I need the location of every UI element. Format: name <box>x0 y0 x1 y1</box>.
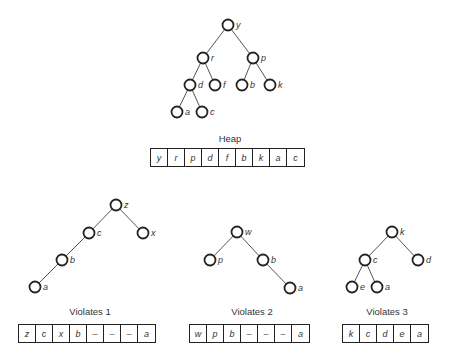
tree-node-a <box>172 107 183 118</box>
tree-node-label: e <box>360 282 365 292</box>
array-cell: b <box>70 325 87 342</box>
violates2-caption: Violates 2 <box>217 306 287 317</box>
violates3-array: kcdea <box>342 324 429 343</box>
violates2-tree: wpba <box>205 227 304 294</box>
array-cell: a <box>270 149 287 166</box>
tree-node-label: p <box>217 255 223 265</box>
tree-node-y <box>223 20 234 31</box>
tree-node-f <box>210 80 221 91</box>
tree-node-label: c <box>210 107 215 117</box>
array-cell: – <box>104 325 121 342</box>
tree-node-label: b <box>70 255 75 265</box>
tree-node-label: r <box>211 53 215 63</box>
tree-node-label: c <box>97 228 102 238</box>
array-cell: f <box>219 149 236 166</box>
array-cell: w <box>190 325 207 342</box>
array-cell: c <box>287 149 304 166</box>
tree-node-label: a <box>385 282 390 292</box>
tree-node-label: a <box>298 283 303 293</box>
tree-node-k <box>387 227 398 238</box>
tree-node-label: d <box>426 255 432 265</box>
array-cell: y <box>151 149 168 166</box>
tree-node-label: k <box>278 80 283 90</box>
array-cell: a <box>411 325 428 342</box>
tree-node-z <box>111 200 122 211</box>
tree-node-k <box>265 80 276 91</box>
violates1-array: zcxb–––a <box>18 324 156 343</box>
tree-node-a <box>30 282 41 293</box>
array-cell: – <box>241 325 258 342</box>
array-cell: a <box>138 325 155 342</box>
array-cell: b <box>236 149 253 166</box>
tree-node-label: y <box>235 20 241 30</box>
violates3-tree: kcdea <box>347 227 433 293</box>
tree-node-label: p <box>260 53 266 63</box>
tree-node-label: w <box>245 227 252 237</box>
tree-node-label: z <box>123 200 129 210</box>
array-cell: a <box>292 325 309 342</box>
array-cell: r <box>168 149 185 166</box>
array-cell: x <box>53 325 70 342</box>
violates2-array: wpb–––a <box>189 324 310 343</box>
array-cell: c <box>36 325 53 342</box>
tree-node-label: c <box>373 255 378 265</box>
tree-node-x <box>138 228 149 239</box>
violates1-caption: Violates 1 <box>55 306 125 317</box>
violates1-tree: zcxba <box>30 200 157 293</box>
array-cell: e <box>394 325 411 342</box>
tree-node-label: x <box>150 228 156 238</box>
array-cell: c <box>360 325 377 342</box>
violates3-caption: Violates 3 <box>352 306 422 317</box>
tree-node-b <box>57 255 68 266</box>
tree-node-c <box>360 255 371 266</box>
array-cell: d <box>202 149 219 166</box>
tree-node-label: f <box>223 80 227 90</box>
array-cell: p <box>207 325 224 342</box>
heap-array: yrpdfbkac <box>150 148 305 167</box>
tree-node-p <box>248 53 259 64</box>
tree-node-p <box>205 255 216 266</box>
tree-node-label: b <box>271 255 276 265</box>
array-cell: – <box>121 325 138 342</box>
tree-node-d <box>413 255 424 266</box>
tree-node-w <box>232 227 243 238</box>
array-cell: b <box>224 325 241 342</box>
tree-node-label: b <box>250 80 255 90</box>
array-cell: d <box>377 325 394 342</box>
array-cell: k <box>343 325 360 342</box>
tree-node-label: d <box>198 80 204 90</box>
tree-node-b <box>237 80 248 91</box>
tree-node-c <box>84 228 95 239</box>
tree-node-b <box>258 255 269 266</box>
tree-node-a <box>372 282 383 293</box>
array-cell: k <box>253 149 270 166</box>
tree-node-a <box>285 283 296 294</box>
array-cell: z <box>19 325 36 342</box>
heap-tree: yrpdfbkac <box>172 20 284 118</box>
tree-node-e <box>347 282 358 293</box>
tree-node-d <box>185 80 196 91</box>
array-cell: p <box>185 149 202 166</box>
array-cell: – <box>258 325 275 342</box>
tree-node-label: k <box>400 227 405 237</box>
array-cell: – <box>87 325 104 342</box>
tree-node-c <box>197 107 208 118</box>
heap-caption: Heap <box>200 133 260 144</box>
tree-node-r <box>198 53 209 64</box>
tree-node-label: a <box>185 107 190 117</box>
array-cell: – <box>275 325 292 342</box>
tree-node-label: a <box>43 282 48 292</box>
